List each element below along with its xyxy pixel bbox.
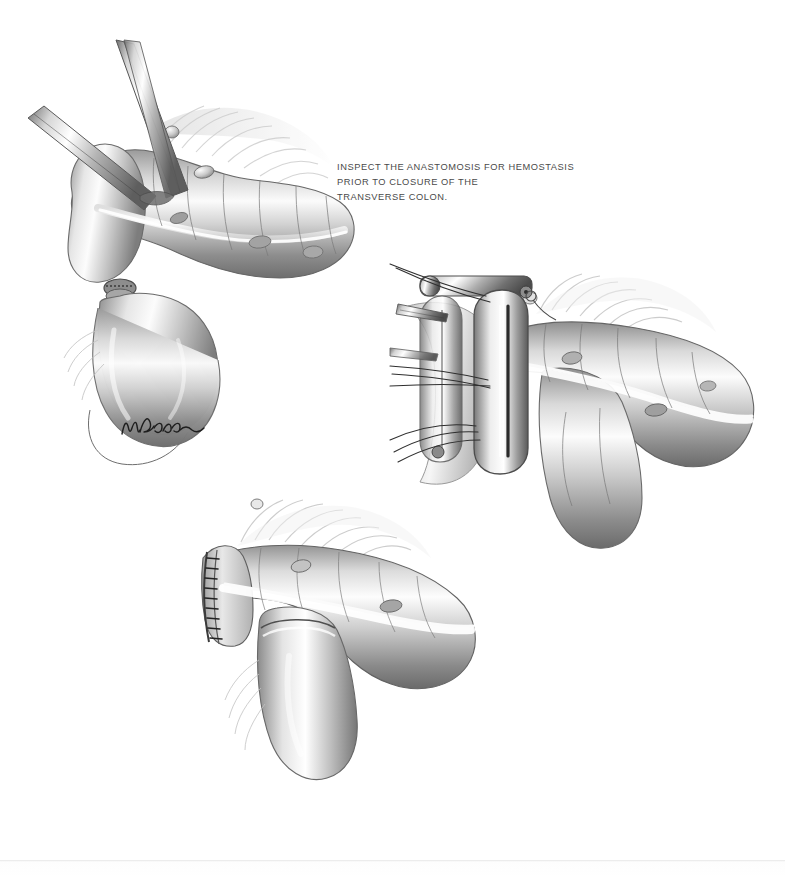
artist-signature bbox=[118, 412, 208, 444]
caption-line-2: PRIOR TO CLOSURE OF THE bbox=[337, 175, 587, 190]
figure-completed-stapled-anastomosis bbox=[175, 480, 505, 790]
caption-line-1: INSPECT THE ANASTOMOSIS FOR HEMOSTASIS bbox=[337, 160, 587, 175]
figure-transverse-colon-with-clamps bbox=[28, 40, 358, 470]
caption-block: INSPECT THE ANASTOMOSIS FOR HEMOSTASIS P… bbox=[337, 160, 587, 206]
caption-line-3: TRANSVERSE COLON. bbox=[337, 190, 587, 205]
stapler-cartridge bbox=[474, 290, 528, 474]
linear-stapler bbox=[420, 276, 532, 474]
page-edge-shadow bbox=[0, 862, 785, 877]
colon-segment bbox=[502, 322, 754, 548]
illustration-page: INSPECT THE ANASTOMOSIS FOR HEMOSTASIS P… bbox=[0, 0, 785, 877]
